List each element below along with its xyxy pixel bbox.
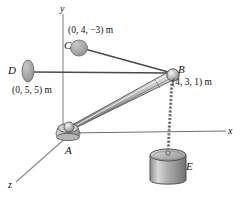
point-coord-d: (0, 5, 5) m	[12, 86, 52, 96]
point-label-c: C	[64, 40, 71, 51]
statics-figure: y x z C (0, 4, −3) m D (0, 5, 5) m B (4,…	[0, 0, 241, 197]
z-axis-label: z	[8, 180, 12, 190]
point-label-b: B	[178, 64, 185, 75]
point-label-e: E	[186, 161, 193, 172]
y-axis-label: y	[60, 4, 64, 14]
point-label-a: A	[65, 145, 72, 156]
point-coord-c: (0, 4, −3) m	[68, 26, 113, 36]
x-axis-line	[66, 131, 226, 133]
support-disc-D	[22, 60, 34, 82]
z-axis-line	[16, 136, 68, 182]
support-disc-C	[71, 40, 88, 56]
weight-cylinder-E	[150, 149, 186, 184]
cable-CB	[81, 48, 172, 73]
point-coord-b: (4, 3, 1) m	[172, 78, 212, 88]
cable-DB	[32, 72, 172, 73]
figure-canvas	[0, 0, 241, 197]
boom-AB	[69, 71, 175, 131]
x-axis-label: x	[228, 126, 232, 136]
chain-BE	[168, 80, 172, 152]
point-label-d: D	[8, 65, 16, 76]
